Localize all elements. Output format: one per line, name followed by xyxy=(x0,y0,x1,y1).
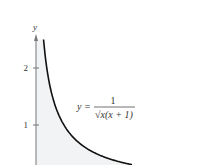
equation-numerator: 1 xyxy=(111,95,116,106)
chart: y 12 y = 1 √x(x + 1) xyxy=(0,0,204,165)
y-tick-label-1: 1 xyxy=(24,120,29,130)
equation-annotation: y = 1 √x(x + 1) xyxy=(76,95,135,121)
y-axis-label: y xyxy=(32,22,37,32)
equation-denominator: √x(x + 1) xyxy=(95,109,133,121)
y-tick-label-2: 2 xyxy=(24,63,29,73)
y-axis-arrow xyxy=(34,34,38,41)
equation-lhs: y = xyxy=(76,101,91,112)
